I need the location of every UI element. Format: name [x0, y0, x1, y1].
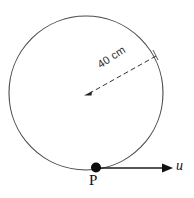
- radius-dashed-line: [90, 56, 156, 93]
- radius-arrowhead-icon: [84, 91, 92, 95]
- circle-outline: [9, 16, 163, 170]
- radius-rim-tick: [153, 50, 158, 60]
- velocity-arrowhead-icon: [162, 164, 173, 173]
- physics-circle-diagram: 40 cm P u: [0, 0, 194, 198]
- diagram-canvas: [0, 0, 194, 198]
- point-p-dot: [91, 163, 101, 173]
